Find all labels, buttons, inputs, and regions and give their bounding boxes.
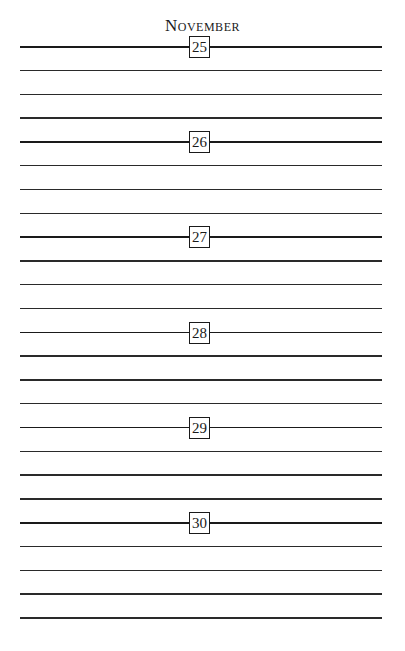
- writing-line: [20, 165, 382, 166]
- writing-line: [20, 355, 382, 356]
- writing-line: [20, 379, 382, 380]
- writing-line: [20, 189, 382, 190]
- month-title: November: [0, 16, 405, 36]
- writing-line: [20, 451, 382, 452]
- writing-line: [20, 308, 382, 309]
- writing-line: [20, 498, 382, 499]
- writing-line: [20, 570, 382, 571]
- writing-line: [20, 213, 382, 214]
- writing-line: [20, 284, 382, 285]
- day-number-box: 28: [189, 322, 210, 344]
- writing-line: [20, 617, 382, 618]
- day-number-box: 26: [189, 131, 210, 153]
- day-number-box: 30: [189, 512, 210, 534]
- writing-line: [20, 474, 382, 475]
- writing-line: [20, 546, 382, 547]
- writing-line: [20, 403, 382, 404]
- day-number-box: 27: [189, 226, 210, 248]
- writing-line: [20, 117, 382, 118]
- day-number-box: 25: [189, 36, 210, 58]
- writing-line: [20, 593, 382, 594]
- day-number-box: 29: [189, 417, 210, 439]
- writing-line: [20, 70, 382, 71]
- writing-line: [20, 94, 382, 95]
- writing-line: [20, 260, 382, 261]
